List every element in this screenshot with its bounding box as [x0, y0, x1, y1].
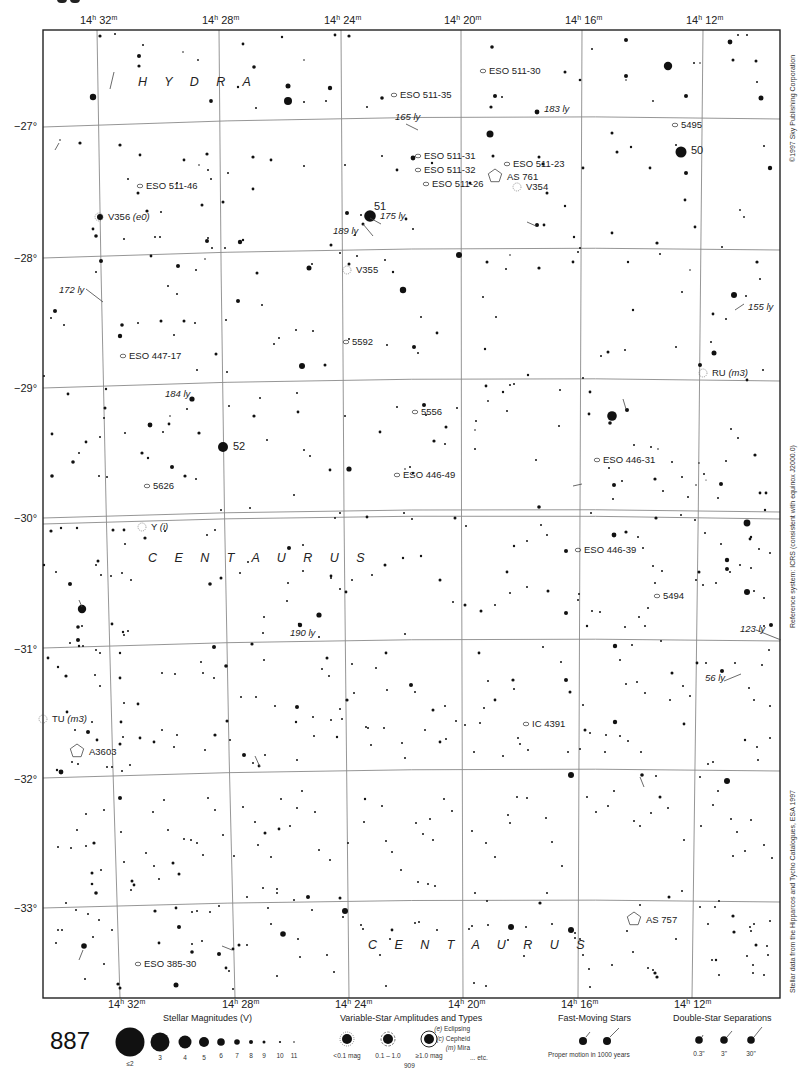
star	[205, 239, 209, 243]
star	[226, 720, 229, 723]
variable-type-entry: ... etc.	[470, 1054, 488, 1061]
star	[486, 900, 488, 902]
star	[755, 260, 758, 263]
star	[121, 572, 123, 574]
star	[588, 968, 590, 970]
star	[737, 34, 739, 36]
star	[613, 790, 615, 792]
star	[121, 770, 123, 772]
star	[465, 525, 467, 527]
star	[650, 446, 652, 448]
star	[255, 696, 257, 698]
magnitude-label: 4	[183, 1054, 187, 1061]
star	[578, 593, 580, 595]
star	[626, 930, 628, 932]
star	[176, 264, 180, 268]
star	[111, 929, 113, 931]
star	[342, 916, 344, 918]
star	[217, 952, 221, 956]
star	[737, 437, 739, 439]
star	[746, 379, 749, 382]
star	[257, 844, 259, 846]
star	[303, 59, 305, 61]
star	[702, 584, 704, 586]
star	[637, 536, 639, 538]
star	[659, 253, 661, 255]
star	[391, 929, 394, 932]
star	[316, 612, 321, 617]
star	[568, 772, 574, 778]
star	[653, 971, 656, 974]
star	[123, 861, 125, 863]
star	[264, 832, 267, 835]
star	[396, 406, 398, 408]
star	[537, 266, 540, 269]
star	[417, 881, 419, 883]
star	[487, 400, 489, 402]
star	[99, 652, 101, 654]
star	[112, 529, 115, 532]
star	[334, 517, 336, 519]
star	[110, 575, 112, 577]
star	[204, 749, 206, 751]
star	[91, 883, 94, 886]
star	[483, 707, 485, 709]
star	[167, 285, 169, 287]
star	[689, 695, 691, 697]
star	[242, 753, 246, 757]
star	[330, 719, 332, 721]
star	[546, 892, 548, 894]
star	[454, 517, 457, 520]
star	[661, 570, 663, 572]
star	[98, 919, 100, 921]
star	[47, 657, 50, 660]
star	[612, 483, 616, 487]
star	[123, 702, 125, 704]
object-label: ESO 511-35	[400, 89, 452, 100]
star	[43, 375, 45, 377]
star	[232, 948, 235, 951]
star	[222, 834, 224, 836]
star	[212, 645, 216, 649]
star	[649, 167, 652, 170]
star	[94, 891, 98, 895]
star	[639, 825, 641, 827]
star	[511, 678, 514, 681]
star	[360, 924, 362, 926]
star	[123, 238, 125, 240]
star	[270, 856, 272, 858]
star	[201, 940, 203, 942]
star	[329, 469, 332, 472]
star	[698, 363, 702, 367]
star	[170, 465, 174, 469]
star	[669, 699, 671, 701]
star	[351, 579, 353, 581]
star	[252, 762, 254, 764]
star	[695, 484, 697, 486]
star	[501, 96, 503, 98]
star	[715, 959, 717, 961]
star	[473, 751, 475, 753]
star	[474, 429, 476, 431]
star	[281, 36, 283, 38]
star	[756, 81, 758, 83]
object-label: IC 4391	[532, 718, 565, 729]
dec-tick-label: −28°	[14, 252, 37, 264]
star	[650, 812, 652, 814]
star	[251, 155, 254, 158]
star	[675, 144, 677, 146]
star	[78, 141, 81, 144]
double-separation-label: 0.3"	[693, 1050, 705, 1057]
star	[50, 474, 54, 478]
star	[176, 734, 178, 736]
star	[252, 65, 256, 69]
star	[226, 371, 228, 373]
dec-tick-label: −30°	[14, 512, 37, 524]
star	[261, 304, 263, 306]
star	[380, 96, 384, 100]
star	[344, 415, 346, 417]
star	[122, 736, 124, 738]
star	[71, 460, 75, 464]
star	[175, 907, 178, 910]
star	[200, 661, 202, 663]
